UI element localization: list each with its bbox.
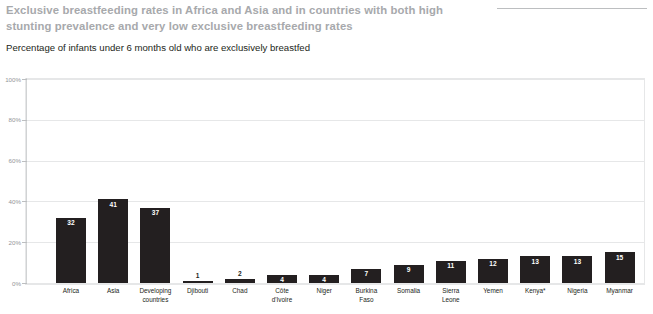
bar-value-label: 37 bbox=[140, 209, 170, 217]
bar-value-label: 9 bbox=[394, 266, 424, 274]
chart-page: Exclusive breastfeeding rates in Africa … bbox=[0, 0, 653, 314]
x-axis-category-label: Djibouti bbox=[176, 287, 220, 296]
bar[interactable] bbox=[98, 199, 128, 283]
bar-value-label: 12 bbox=[478, 260, 508, 268]
bar-value-label: 7 bbox=[351, 270, 381, 278]
bar[interactable] bbox=[140, 208, 170, 283]
x-axis-category-label: Asia bbox=[91, 287, 135, 296]
x-axis-category-label: Côted'Ivoire bbox=[260, 287, 304, 304]
bar-value-label: 1 bbox=[183, 272, 213, 280]
bar-value-label: 15 bbox=[605, 254, 635, 262]
x-axis-category-label: Kenya* bbox=[513, 287, 557, 296]
bar-value-label: 41 bbox=[98, 201, 128, 209]
bar[interactable] bbox=[56, 218, 86, 283]
bar[interactable] bbox=[183, 281, 213, 283]
x-axis-category-label: Myanmar bbox=[598, 287, 642, 296]
bar-value-label: 2 bbox=[225, 270, 255, 278]
bar-series: 32Africa41Asia37Developingcountries1Djib… bbox=[0, 0, 653, 314]
x-axis-category-label: Somalia bbox=[387, 287, 431, 296]
x-axis-category-label: Developingcountries bbox=[133, 287, 177, 304]
x-axis-category-label: Niger bbox=[302, 287, 346, 296]
bar-value-label: 13 bbox=[520, 258, 550, 266]
x-axis-category-label: Africa bbox=[49, 287, 93, 296]
x-axis-category-label: Nigeria bbox=[555, 287, 599, 296]
x-axis-category-label: BurkinaFaso bbox=[344, 287, 388, 304]
bar-value-label: 4 bbox=[267, 276, 297, 284]
bar-value-label: 13 bbox=[562, 258, 592, 266]
bar-value-label: 4 bbox=[309, 276, 339, 284]
bar[interactable] bbox=[225, 279, 255, 283]
x-axis-category-label: Chad bbox=[218, 287, 262, 296]
bar-value-label: 32 bbox=[56, 219, 86, 227]
x-axis-category-label: Yemen bbox=[471, 287, 515, 296]
x-axis-category-label: SierraLeone bbox=[429, 287, 473, 304]
bar-value-label: 11 bbox=[436, 262, 466, 270]
